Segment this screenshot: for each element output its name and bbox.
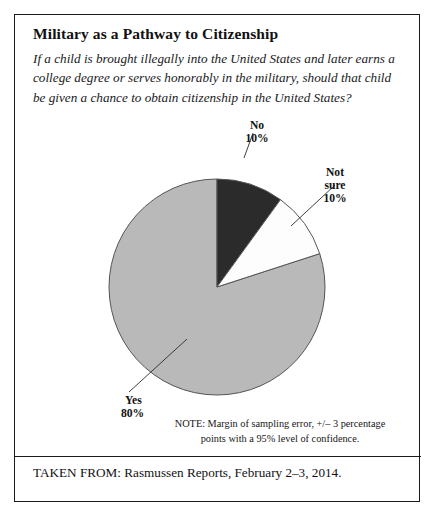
pie-label-no-name: No	[250, 119, 264, 132]
pie-chart-svg: No 10% Not sure 10% Yes 80%	[15, 111, 421, 421]
pie-label-yes-name: Yes	[125, 394, 142, 407]
divider-rule	[15, 456, 421, 457]
pie-label-not-sure-line1: Not	[326, 166, 344, 179]
pie-label-yes-value: 80%	[121, 407, 144, 420]
page-title: Military as a Pathway to Citizenship	[33, 25, 403, 43]
note-line-2: points with a 95% level of confidence.	[155, 432, 405, 447]
source-line: TAKEN FROM: Rasmussen Reports, February …	[33, 465, 405, 481]
pie-chart: No 10% Not sure 10% Yes 80%	[15, 111, 421, 421]
note-block: NOTE: Margin of sampling error, +/– 3 pe…	[155, 417, 405, 446]
chart-frame: Military as a Pathway to Citizenship If …	[14, 14, 420, 502]
pie-label-not-sure-line2: sure	[324, 179, 345, 192]
pie-label-not-sure-value: 10%	[323, 192, 346, 205]
note-line-1: NOTE: Margin of sampling error, +/– 3 pe…	[155, 417, 405, 432]
survey-question: If a child is brought illegally into the…	[33, 49, 401, 107]
pie-label-no-value: 10%	[245, 132, 268, 145]
